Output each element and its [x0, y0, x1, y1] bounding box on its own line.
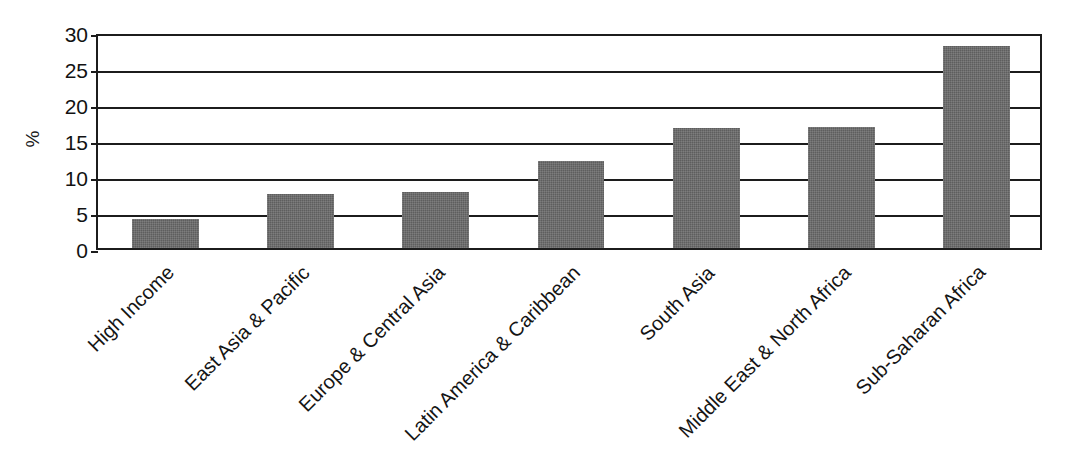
x-axis-tick-label: Sub-Saharan Africa — [852, 262, 989, 399]
bar[interactable] — [267, 194, 334, 248]
x-axis-tick-label: Europe & Central Asia — [295, 262, 448, 415]
bar-chart-figure: % 051015202530 High IncomeEast Asia & Pa… — [0, 0, 1069, 474]
bar[interactable] — [132, 219, 199, 248]
y-axis-tick-mark — [91, 179, 98, 181]
bar[interactable] — [673, 128, 740, 248]
y-axis-tick-label: 30 — [44, 24, 88, 45]
y-axis-tick-mark — [91, 71, 98, 73]
y-axis-tick-labels: 051015202530 — [44, 24, 88, 250]
y-axis-tick-label: 0 — [44, 240, 88, 261]
y-axis-tick-mark — [91, 251, 98, 253]
bar[interactable] — [808, 127, 875, 248]
y-axis-tick-mark — [91, 107, 98, 109]
y-axis-tick-label: 20 — [44, 96, 88, 117]
plot-area — [96, 34, 1042, 250]
y-axis-tick-mark — [91, 35, 98, 37]
y-axis-tick-mark — [91, 215, 98, 217]
bar[interactable] — [538, 161, 605, 248]
bar[interactable] — [402, 192, 469, 248]
x-axis-tick-label: South Asia — [636, 262, 718, 344]
bar[interactable] — [943, 46, 1010, 248]
y-axis-tick-label: 10 — [44, 168, 88, 189]
x-axis-tick-label: East Asia & Pacific — [181, 262, 313, 394]
bars-group — [98, 36, 1040, 248]
y-axis-tick-label: 25 — [44, 60, 88, 81]
y-axis-title: % — [22, 124, 44, 154]
y-axis-tick-label: 15 — [44, 132, 88, 153]
x-axis-tick-label: High Income — [84, 262, 178, 356]
y-axis-tick-label: 5 — [44, 204, 88, 225]
plot-inner — [98, 36, 1040, 248]
y-axis-tick-mark — [91, 143, 98, 145]
